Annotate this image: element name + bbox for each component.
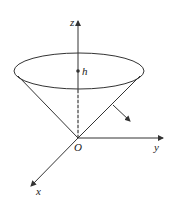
origin-label: O [74,141,82,153]
cone-side-left [18,76,78,138]
y-axis-label: y [153,141,159,153]
x-axis-label: x [35,185,41,197]
height-point [76,69,80,73]
cone-diagram: z h O y x [0,0,171,201]
x-axis [31,138,78,186]
z-axis-label: z [69,16,75,28]
normal-vector-arrow [113,105,130,121]
cone-side-right [78,76,140,138]
height-label: h [82,65,88,77]
